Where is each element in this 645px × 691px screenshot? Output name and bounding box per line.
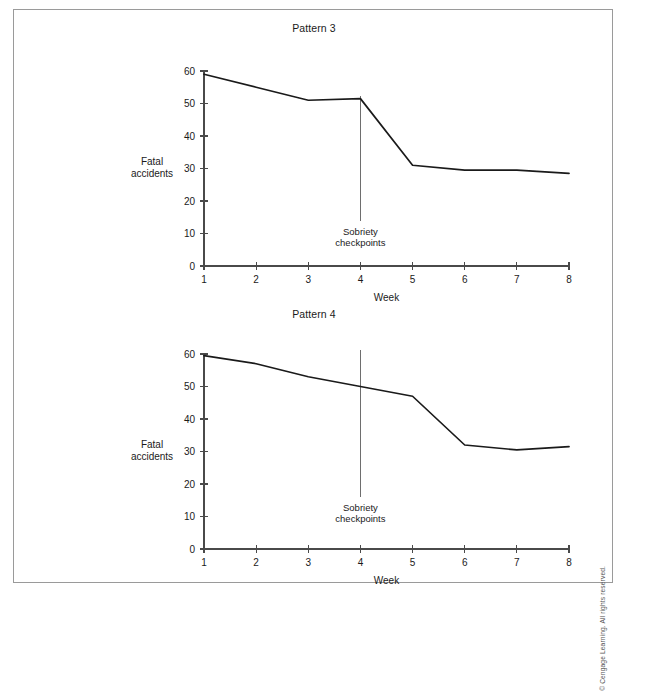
copyright-container: © Cengage Learning. All rights reserved. bbox=[598, 402, 608, 572]
x-tick-label: 2 bbox=[253, 557, 259, 568]
y-tick-label: 40 bbox=[184, 414, 196, 425]
data-series-line bbox=[204, 356, 569, 450]
x-tick-label: 3 bbox=[306, 557, 312, 568]
x-axis-title: Week bbox=[374, 292, 400, 301]
x-tick-label: 4 bbox=[358, 274, 364, 285]
x-tick-label: 3 bbox=[306, 274, 312, 285]
y-tick-label: 30 bbox=[184, 446, 196, 457]
intervention-annotation-line1: Sobriety bbox=[343, 226, 378, 237]
x-tick-label: 1 bbox=[201, 274, 207, 285]
plot-area-pattern-4: 010203040506012345678WeekFatalaccidentsS… bbox=[14, 302, 614, 584]
chart-panel-pattern-4: Pattern 4 010203040506012345678WeekFatal… bbox=[14, 302, 614, 584]
intervention-annotation-line1: Sobriety bbox=[343, 502, 378, 513]
y-axis-title-line1: Fatal bbox=[141, 156, 163, 167]
intervention-annotation-line2: checkpoints bbox=[335, 237, 385, 248]
x-axis-title: Week bbox=[374, 575, 400, 584]
intervention-annotation-line2: checkpoints bbox=[335, 513, 385, 524]
x-tick-label: 8 bbox=[566, 274, 572, 285]
y-tick-label: 30 bbox=[184, 163, 196, 174]
y-tick-label: 40 bbox=[184, 131, 196, 142]
x-tick-label: 8 bbox=[566, 557, 572, 568]
y-tick-label: 50 bbox=[184, 98, 196, 109]
x-tick-label: 7 bbox=[514, 274, 520, 285]
x-tick-label: 6 bbox=[462, 557, 468, 568]
x-tick-label: 5 bbox=[410, 274, 416, 285]
y-tick-label: 60 bbox=[184, 66, 196, 77]
copyright-notice: © Cengage Learning. All rights reserved. bbox=[599, 566, 606, 691]
x-tick-label: 7 bbox=[514, 557, 520, 568]
plot-area-pattern-3: 010203040506012345678WeekFatalaccidentsS… bbox=[14, 16, 614, 301]
y-tick-label: 50 bbox=[184, 381, 196, 392]
x-tick-label: 6 bbox=[462, 274, 468, 285]
y-tick-label: 10 bbox=[184, 228, 196, 239]
data-series-line bbox=[204, 74, 569, 173]
x-tick-label: 4 bbox=[358, 557, 364, 568]
x-tick-label: 1 bbox=[201, 557, 207, 568]
figure-frame: Pattern 3 010203040506012345678WeekFatal… bbox=[13, 9, 613, 583]
y-tick-label: 20 bbox=[184, 196, 196, 207]
y-tick-label: 10 bbox=[184, 511, 196, 522]
y-tick-label: 0 bbox=[189, 261, 195, 272]
chart-panel-pattern-3: Pattern 3 010203040506012345678WeekFatal… bbox=[14, 16, 614, 301]
y-tick-label: 0 bbox=[189, 544, 195, 555]
y-tick-label: 20 bbox=[184, 479, 196, 490]
y-tick-label: 60 bbox=[184, 349, 196, 360]
y-axis-title-line2: accidents bbox=[131, 451, 173, 462]
x-tick-label: 2 bbox=[253, 274, 259, 285]
y-axis-title-line2: accidents bbox=[131, 168, 173, 179]
x-tick-label: 5 bbox=[410, 557, 416, 568]
y-axis-title-line1: Fatal bbox=[141, 439, 163, 450]
